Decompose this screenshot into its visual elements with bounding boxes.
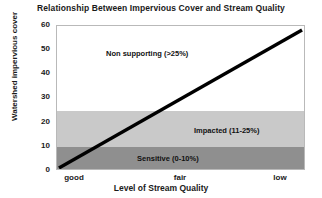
band-label-non-supporting: Non supporting (>25%) bbox=[106, 49, 188, 58]
chart-title: Relationship Between Impervious Cover an… bbox=[0, 3, 322, 13]
y-tick-label-30: 30 bbox=[24, 93, 50, 101]
y-tick-label-20: 20 bbox=[24, 118, 50, 126]
x-tick-label-low: low bbox=[258, 173, 302, 182]
y-tick-label-10: 10 bbox=[24, 142, 50, 150]
chart-figure: Relationship Between Impervious Cover an… bbox=[0, 0, 322, 198]
x-tick-label-good: good bbox=[52, 173, 96, 182]
x-tick-label-fair: fair bbox=[158, 173, 202, 182]
plot-area: Non supporting (>25%) Impacted (11-25%) … bbox=[56, 25, 305, 170]
trend-line bbox=[57, 26, 304, 169]
band-label-sensitive: Sensitive (0-10%) bbox=[137, 154, 199, 163]
band-label-impacted: Impacted (11-25%) bbox=[194, 126, 259, 135]
x-axis-title: Level of Stream Quality bbox=[0, 183, 322, 193]
y-tick-label-50: 50 bbox=[24, 45, 50, 53]
y-tick-label-40: 40 bbox=[24, 69, 50, 77]
y-axis-title: Watershed impervious cover bbox=[10, 7, 19, 127]
y-tick-label-0: 0 bbox=[24, 166, 50, 174]
y-tick-label-60: 60 bbox=[24, 21, 50, 29]
